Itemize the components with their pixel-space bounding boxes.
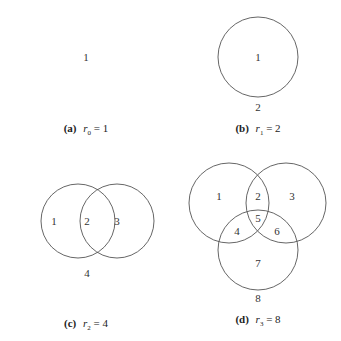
panel-d: 1 2 3 4 5 6 7 8 (d) r3 = 8: [189, 163, 326, 328]
region-label: 7: [255, 257, 261, 269]
region-label: 6: [274, 225, 280, 237]
region-label: 3: [289, 190, 295, 202]
caption-d: (d) r3 = 8: [235, 313, 281, 328]
caption-c: (c) r2 = 4: [64, 317, 108, 332]
region-label: 4: [234, 225, 240, 237]
caption-a: (a) r0 = 1: [64, 122, 109, 137]
region-label: 3: [114, 215, 120, 227]
region-label: 2: [255, 190, 261, 202]
panel-c: 1 2 3 4 (c) r2 = 4: [41, 184, 154, 332]
region-label: 1: [216, 190, 222, 202]
region-label: 2: [84, 215, 90, 227]
region-label-outside: 2: [255, 101, 261, 113]
region-label-outside: 8: [255, 292, 261, 304]
region-label: 1: [51, 215, 57, 227]
caption-b: (b) r1 = 2: [235, 122, 280, 137]
set-circle-b: [246, 163, 326, 243]
panel-b: 1 2 (b) r1 = 2: [218, 17, 298, 137]
region-label: 5: [255, 212, 261, 224]
region-label: 1: [255, 51, 261, 63]
region-label-outside: 4: [84, 267, 90, 279]
venn-regions-figure: 1 (a) r0 = 1 1 2 (b) r1 = 2 1 2 3 4 (c) …: [0, 0, 341, 341]
region-label: 1: [83, 51, 89, 63]
panel-a: 1 (a) r0 = 1: [64, 51, 109, 137]
